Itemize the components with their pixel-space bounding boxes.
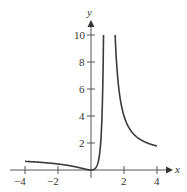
y-tick-label: 2 <box>79 137 85 149</box>
x-axis-arrow-icon <box>166 167 173 174</box>
x-tick-label: 4 <box>154 175 160 187</box>
y-tick-label: 10 <box>74 29 86 41</box>
chart: x y −4 −2 2 4 10 8 6 4 2 <box>0 0 187 192</box>
y-tick-label: 6 <box>79 83 85 95</box>
x-tick-label: −4 <box>14 175 26 187</box>
curve-left-branch <box>25 35 104 170</box>
y-tick-label: 8 <box>79 56 85 68</box>
y-tick-label: 4 <box>79 110 85 122</box>
x-tick-label: 2 <box>121 175 127 187</box>
y-axis-arrow-icon <box>88 20 95 27</box>
y-axis-label: y <box>86 6 92 18</box>
curve-right-branch <box>115 35 157 146</box>
x-axis-label: x <box>174 163 180 175</box>
x-tick-label: −2 <box>47 175 59 187</box>
